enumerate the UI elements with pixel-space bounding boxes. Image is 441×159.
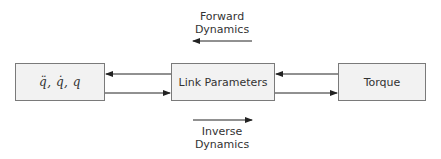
arrows-layer <box>0 0 441 159</box>
